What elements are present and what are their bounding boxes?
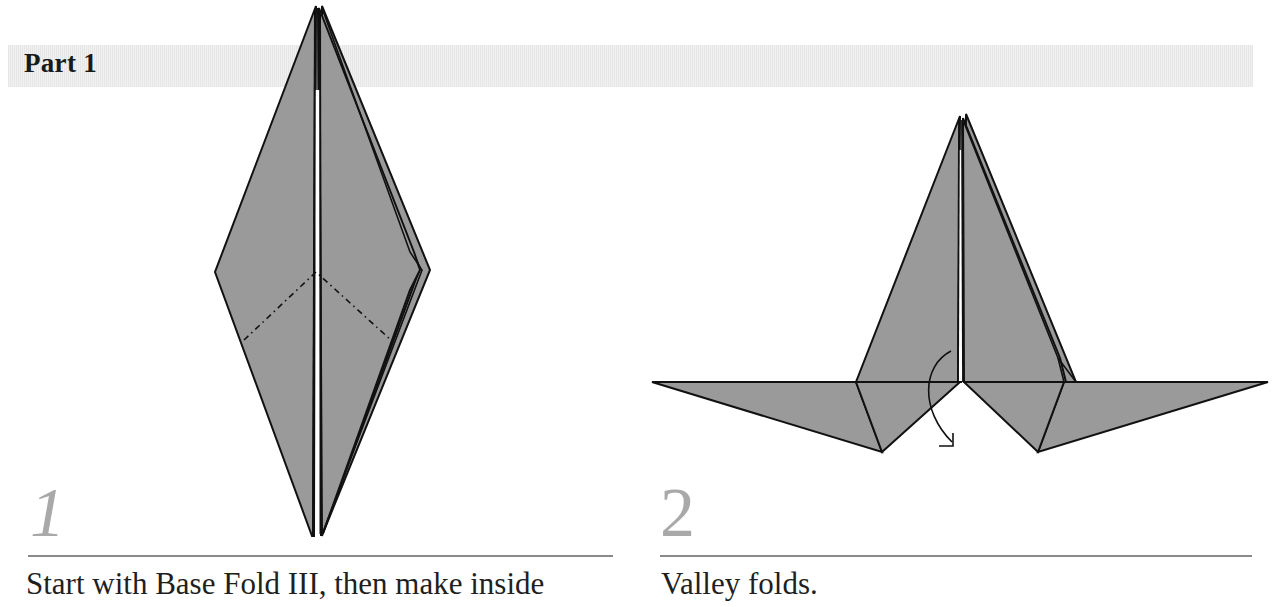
step-1-number: 1 [30,478,65,548]
step-1-divider [28,555,613,557]
step-1-caption: Start with Base Fold III, then make insi… [26,566,544,602]
step-1-diagram [0,0,1287,607]
step-2-divider [660,555,1252,557]
step-2-number: 2 [660,478,695,548]
step-2-caption: Valley folds. [661,566,818,602]
